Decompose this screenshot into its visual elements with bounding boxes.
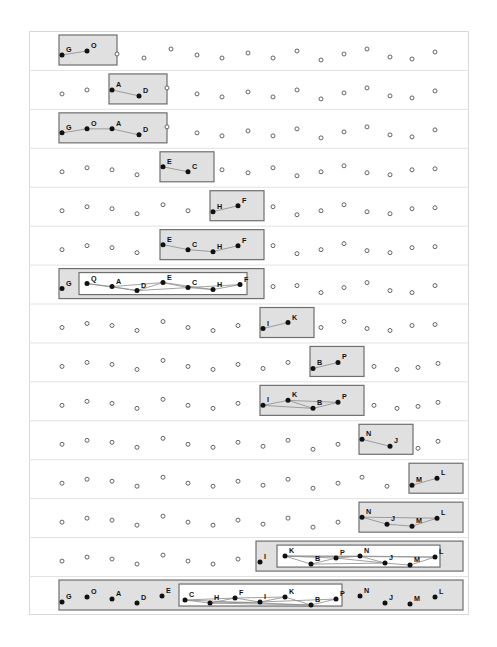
data-point-filled[interactable] — [211, 209, 216, 214]
data-point-hollow[interactable] — [342, 242, 346, 246]
data-point-hollow[interactable] — [286, 477, 290, 481]
data-point-hollow[interactable] — [342, 52, 346, 56]
data-point-hollow[interactable] — [271, 285, 275, 289]
data-point-hollow[interactable] — [295, 213, 299, 217]
data-point-hollow[interactable] — [110, 518, 114, 522]
data-point-hollow[interactable] — [342, 286, 346, 290]
data-point-hollow[interactable] — [416, 365, 420, 369]
data-point-hollow[interactable] — [388, 329, 392, 333]
data-point-hollow[interactable] — [135, 251, 139, 255]
data-point-hollow[interactable] — [110, 440, 114, 444]
data-point-hollow[interactable] — [410, 135, 414, 139]
data-point-hollow[interactable] — [295, 284, 299, 288]
data-point-filled[interactable] — [261, 403, 266, 408]
data-point-hollow[interactable] — [372, 364, 376, 368]
data-point-hollow[interactable] — [395, 406, 399, 410]
data-point-hollow[interactable] — [195, 131, 199, 135]
data-point-filled[interactable] — [334, 597, 339, 602]
data-point-hollow[interactable] — [186, 520, 190, 524]
data-point-filled[interactable] — [385, 522, 390, 527]
data-point-hollow[interactable] — [169, 47, 173, 51]
data-point-hollow[interactable] — [60, 481, 64, 485]
cluster-box[interactable] — [260, 385, 364, 415]
data-point-hollow[interactable] — [110, 362, 114, 366]
data-point-hollow[interactable] — [319, 170, 323, 174]
data-point-filled[interactable] — [236, 203, 241, 208]
data-point-filled[interactable] — [311, 366, 316, 371]
data-point-filled[interactable] — [186, 247, 191, 252]
data-point-filled[interactable] — [283, 554, 288, 559]
data-point-filled[interactable] — [435, 476, 440, 481]
data-point-hollow[interactable] — [135, 484, 139, 488]
data-point-filled[interactable] — [60, 286, 65, 291]
data-point-hollow[interactable] — [385, 484, 389, 488]
data-point-filled[interactable] — [208, 601, 213, 606]
data-point-hollow[interactable] — [388, 55, 392, 59]
data-point-filled[interactable] — [85, 595, 90, 600]
data-point-hollow[interactable] — [271, 134, 275, 138]
data-point-hollow[interactable] — [135, 212, 139, 216]
cluster-box[interactable] — [109, 74, 167, 104]
data-point-hollow[interactable] — [319, 136, 323, 140]
data-point-hollow[interactable] — [286, 516, 290, 520]
data-point-hollow[interactable] — [311, 525, 315, 529]
data-point-hollow[interactable] — [220, 134, 224, 138]
data-point-filled[interactable] — [211, 249, 216, 254]
data-point-filled[interactable] — [309, 562, 314, 567]
data-point-filled[interactable] — [336, 400, 341, 405]
data-point-hollow[interactable] — [135, 445, 139, 449]
data-point-hollow[interactable] — [85, 438, 89, 442]
data-point-hollow[interactable] — [135, 523, 139, 527]
data-point-hollow[interactable] — [336, 442, 340, 446]
data-point-filled[interactable] — [408, 602, 413, 607]
data-point-hollow[interactable] — [365, 281, 369, 285]
data-point-hollow[interactable] — [211, 562, 215, 566]
data-point-hollow[interactable] — [211, 445, 215, 449]
data-point-hollow[interactable] — [342, 203, 346, 207]
data-point-hollow[interactable] — [261, 366, 265, 370]
data-point-filled[interactable] — [261, 326, 266, 331]
data-point-hollow[interactable] — [161, 203, 165, 207]
data-point-hollow[interactable] — [261, 483, 265, 487]
data-point-filled[interactable] — [360, 437, 365, 442]
data-point-filled[interactable] — [286, 398, 291, 403]
data-point-hollow[interactable] — [85, 516, 89, 520]
data-point-filled[interactable] — [258, 560, 263, 565]
data-point-filled[interactable] — [336, 360, 341, 365]
data-point-hollow[interactable] — [342, 91, 346, 95]
data-point-hollow[interactable] — [360, 475, 364, 479]
data-point-hollow[interactable] — [246, 171, 250, 175]
data-point-filled[interactable] — [85, 281, 90, 286]
data-point-hollow[interactable] — [110, 401, 114, 405]
data-point-hollow[interactable] — [319, 291, 323, 295]
data-point-hollow[interactable] — [295, 174, 299, 178]
data-point-filled[interactable] — [135, 601, 140, 606]
data-point-hollow[interactable] — [410, 324, 414, 328]
data-point-hollow[interactable] — [60, 92, 64, 96]
data-point-hollow[interactable] — [319, 248, 323, 252]
data-point-filled[interactable] — [358, 554, 363, 559]
data-point-hollow[interactable] — [410, 291, 414, 295]
data-point-filled[interactable] — [110, 87, 115, 92]
data-point-hollow[interactable] — [161, 553, 165, 557]
data-point-hollow[interactable] — [110, 557, 114, 561]
data-point-hollow[interactable] — [161, 436, 165, 440]
data-point-hollow[interactable] — [261, 522, 265, 526]
data-point-hollow[interactable] — [395, 367, 399, 371]
data-point-hollow[interactable] — [388, 133, 392, 137]
data-point-hollow[interactable] — [342, 130, 346, 134]
data-point-filled[interactable] — [161, 242, 166, 247]
data-point-hollow[interactable] — [85, 205, 89, 209]
data-point-hollow[interactable] — [60, 403, 64, 407]
data-point-hollow[interactable] — [246, 129, 250, 133]
data-point-filled[interactable] — [161, 164, 166, 169]
data-point-hollow[interactable] — [186, 364, 190, 368]
data-point-hollow[interactable] — [85, 322, 89, 326]
data-point-hollow[interactable] — [311, 447, 315, 451]
data-point-filled[interactable] — [233, 596, 238, 601]
data-point-hollow[interactable] — [319, 97, 323, 101]
data-point-filled[interactable] — [410, 483, 415, 488]
data-point-hollow[interactable] — [433, 128, 437, 132]
data-point-hollow[interactable] — [388, 289, 392, 293]
data-point-hollow[interactable] — [211, 406, 215, 410]
